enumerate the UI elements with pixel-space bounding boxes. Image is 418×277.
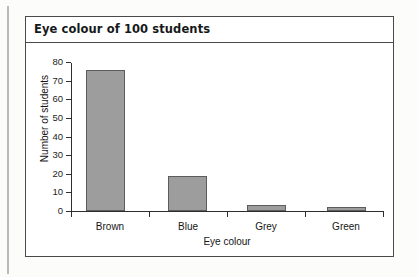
bar-green[interactable] — [327, 207, 366, 211]
y-tick-label: 0 — [58, 205, 63, 216]
y-tick-mark — [66, 137, 71, 138]
bar-brown[interactable] — [86, 70, 125, 212]
y-tick-mark — [66, 155, 71, 156]
y-tick-label: 30 — [52, 149, 63, 160]
y-tick-40: 40 — [66, 137, 71, 138]
y-tick-label: 20 — [52, 168, 63, 179]
y-tick-mark — [66, 62, 71, 63]
bar-grey[interactable] — [247, 205, 286, 211]
y-tick-label: 70 — [52, 75, 63, 86]
y-tick-60: 60 — [66, 99, 71, 100]
bar-blue[interactable] — [168, 176, 207, 211]
y-tick-label: 80 — [52, 56, 63, 67]
figure-header: Eye colour of 100 students — [26, 17, 393, 43]
y-tick-mark — [66, 192, 71, 193]
y-tick-70: 70 — [66, 81, 71, 82]
y-tick-label: 40 — [52, 131, 63, 142]
y-axis-line — [71, 63, 72, 212]
y-tick-label: 60 — [52, 93, 63, 104]
x-tick-boundary-2 — [149, 212, 150, 217]
y-tick-30: 30 — [66, 155, 71, 156]
x-category-label-grey: Grey — [255, 221, 277, 232]
y-tick-label: 10 — [52, 186, 63, 197]
y-tick-mark — [66, 99, 71, 100]
x-tick-boundary-3 — [227, 212, 228, 217]
x-tick-boundary-4 — [305, 212, 306, 217]
x-category-label-blue: Blue — [178, 221, 198, 232]
y-tick-50: 50 — [66, 118, 71, 119]
figure-title: Eye colour of 100 students — [34, 22, 210, 36]
x-tick-boundary-5 — [383, 212, 384, 217]
x-tick-boundary-1 — [71, 212, 72, 217]
x-axis-title: Eye colour — [203, 236, 250, 247]
bar-chart-plot-area: 0 10 20 30 40 50 60 70 — [26, 43, 393, 256]
page-margin-rule — [7, 6, 9, 274]
figure-container: Eye colour of 100 students 0 10 20 30 40… — [25, 16, 394, 257]
y-tick-10: 10 — [66, 192, 71, 193]
y-axis-title: Number of students — [39, 54, 50, 184]
y-tick-mark — [66, 81, 71, 82]
y-tick-80: 80 — [66, 62, 71, 63]
x-category-label-brown: Brown — [96, 221, 124, 232]
y-tick-20: 20 — [66, 174, 71, 175]
x-category-label-green: Green — [332, 221, 360, 232]
y-tick-label: 50 — [52, 112, 63, 123]
y-tick-mark — [66, 118, 71, 119]
y-tick-mark — [66, 174, 71, 175]
